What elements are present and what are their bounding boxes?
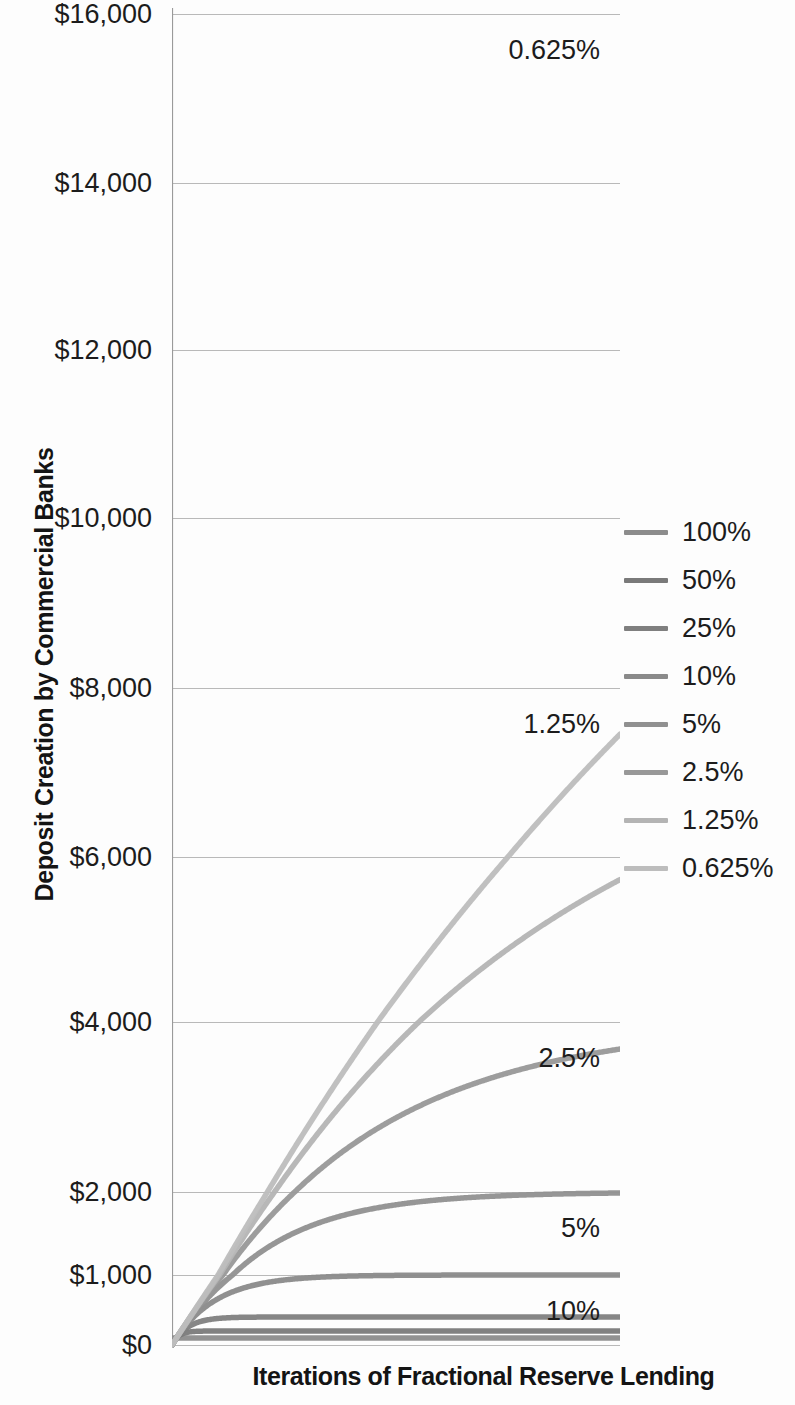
series-line-100pct xyxy=(172,1338,620,1345)
y-axis-tick-label: $14,000 xyxy=(14,168,152,199)
legend-color-swatch xyxy=(624,818,668,823)
legend-color-swatch xyxy=(624,722,668,727)
gridlines-group xyxy=(172,15,620,1346)
y-axis-tick-label: $2,000 xyxy=(14,1177,152,1208)
legend-item[interactable]: 1.25% xyxy=(624,796,795,844)
y-axis-tick-label: $8,000 xyxy=(14,673,152,704)
legend-color-swatch xyxy=(624,866,668,871)
legend-color-swatch xyxy=(624,674,668,679)
legend-item[interactable]: 0.625% xyxy=(624,844,795,892)
legend-label: 50% xyxy=(682,567,736,594)
y-axis-tick-label: $1,000 xyxy=(14,1260,152,1291)
chart-figure: Deposit Creation by Commercial Banks $16… xyxy=(0,0,795,1405)
series-annotation: 0.625% xyxy=(508,35,600,66)
legend-label: 100% xyxy=(682,519,751,546)
legend-label: 1.25% xyxy=(682,807,759,834)
y-axis-tick-label: $6,000 xyxy=(14,842,152,873)
series-annotation: 1.25% xyxy=(523,709,600,740)
legend-label: 2.5% xyxy=(682,759,744,786)
legend-label: 25% xyxy=(682,615,736,642)
legend-label: 10% xyxy=(682,663,736,690)
x-axis-title: Iterations of Fractional Reserve Lending xyxy=(172,1362,795,1391)
chart-legend: 100%50%25%10%5%2.5%1.25%0.625% xyxy=(624,508,795,892)
series-annotation: 5% xyxy=(561,1213,600,1244)
legend-item[interactable]: 5% xyxy=(624,700,795,748)
series-annotation: 10% xyxy=(546,1296,600,1327)
legend-item[interactable]: 50% xyxy=(624,556,795,604)
y-axis-tick-label: $0 xyxy=(14,1330,152,1361)
legend-color-swatch xyxy=(624,770,668,775)
legend-item[interactable]: 2.5% xyxy=(624,748,795,796)
plot-svg xyxy=(172,8,620,1348)
legend-item[interactable]: 25% xyxy=(624,604,795,652)
legend-label: 0.625% xyxy=(682,855,774,882)
y-axis-tick-labels: $16,000$14,000$12,000$10,000$8,000$6,000… xyxy=(0,0,152,1405)
legend-color-swatch xyxy=(624,626,668,631)
series-group xyxy=(172,734,620,1345)
legend-label: 5% xyxy=(682,711,721,738)
legend-item[interactable]: 10% xyxy=(624,652,795,700)
legend-color-swatch xyxy=(624,530,668,535)
y-axis-tick-label: $12,000 xyxy=(14,335,152,366)
legend-color-swatch xyxy=(624,578,668,583)
series-annotation: 2.5% xyxy=(538,1043,600,1074)
y-axis-tick-label: $10,000 xyxy=(14,503,152,534)
plot-area: 0.625%1.25%2.5%5%10% xyxy=(172,8,620,1348)
legend-item[interactable]: 100% xyxy=(624,508,795,556)
y-axis-tick-label: $16,000 xyxy=(14,0,152,30)
y-axis-tick-label: $4,000 xyxy=(14,1007,152,1038)
